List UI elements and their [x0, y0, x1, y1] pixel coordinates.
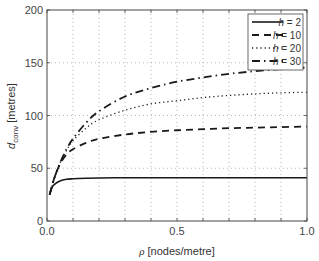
- y-tick-labels: 050100150200: [25, 4, 43, 227]
- series-line-20: [50, 92, 307, 194]
- legend-label: h = 20: [273, 43, 302, 54]
- series-line-10: [50, 127, 307, 195]
- y-tick-label: 200: [25, 4, 43, 16]
- chart: 0.00.51.0 050100150200 ρ [nodes/metre] d…: [0, 0, 319, 261]
- y-tick-label: 0: [37, 215, 43, 227]
- x-tick-label: 0.5: [169, 225, 184, 237]
- y-axis-label: dconv[metres]: [5, 83, 20, 149]
- legend-label: h = 2: [278, 17, 301, 28]
- legend-label: h = 30: [273, 56, 302, 67]
- legend: h = 2h = 10h = 20h = 30: [248, 14, 303, 70]
- series-line-2: [50, 178, 307, 195]
- legend-label: h = 10: [273, 30, 302, 41]
- data-curves: [50, 67, 307, 194]
- y-tick-label: 100: [25, 110, 43, 122]
- x-tick-label: 1.0: [299, 225, 314, 237]
- x-axis-label: ρ [nodes/metre]: [138, 245, 215, 257]
- x-tick-labels: 0.00.51.0: [39, 225, 314, 237]
- y-tick-label: 150: [25, 57, 43, 69]
- y-tick-label: 50: [31, 162, 43, 174]
